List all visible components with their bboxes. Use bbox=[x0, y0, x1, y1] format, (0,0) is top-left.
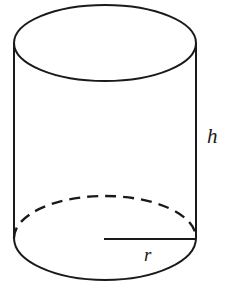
height-label: h bbox=[207, 124, 218, 148]
cylinder-figure: h r bbox=[0, 0, 230, 291]
radius-label: r bbox=[144, 244, 152, 265]
cylinder-diagram-svg: h r bbox=[0, 0, 230, 291]
